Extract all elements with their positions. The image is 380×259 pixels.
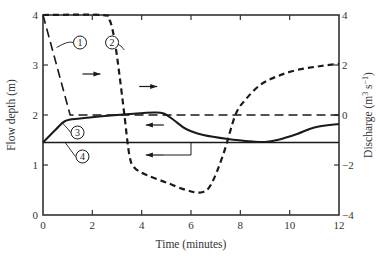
- x-tick-label: 8: [238, 219, 244, 231]
- y-left-tick-label: 4: [33, 9, 39, 21]
- y-right-tick-label: −4: [342, 209, 354, 221]
- x-tick-label: 0: [40, 219, 46, 231]
- series-group: [43, 15, 339, 193]
- arrow-left-head-icon: [146, 153, 153, 158]
- callout-2-label: 2: [110, 37, 115, 48]
- y-right-tick-label: 0: [342, 109, 348, 121]
- y-right-title-main: Discharge (m: [362, 96, 375, 158]
- arrow-right-head-icon: [93, 72, 100, 77]
- callout-3-label: 3: [75, 127, 80, 138]
- series-1-line: [43, 15, 339, 115]
- y-right-tick-label: 2: [342, 59, 348, 71]
- callout-leader: [62, 122, 71, 133]
- y-left-tick-label: 0: [33, 209, 39, 221]
- arrow-left-head-icon: [146, 123, 153, 128]
- callout-4-label: 4: [80, 151, 85, 162]
- y-right-tick-label: −2: [342, 159, 354, 171]
- callout-leader: [65, 143, 75, 157]
- y-axis-right-title: Discharge (m3 s−1): [361, 72, 375, 158]
- y-axis-left-title: Flow depth (m): [5, 79, 18, 151]
- y-right-title-end: ): [362, 72, 375, 76]
- arrow-right-head-icon: [150, 84, 157, 89]
- chart: 02468101201234−4−2024 1234 Time (minutes…: [0, 0, 380, 259]
- callout-1-label: 1: [78, 37, 83, 48]
- series-2-line: [43, 15, 339, 193]
- x-tick-label: 4: [139, 219, 145, 231]
- y-right-tick-label: 4: [342, 9, 348, 21]
- series-3-line: [43, 112, 339, 142]
- x-tick-label: 10: [284, 219, 296, 231]
- y-left-tick-label: 2: [33, 109, 39, 121]
- y-left-tick-label: 1: [33, 159, 39, 171]
- leader-line: [164, 143, 191, 156]
- x-tick-label: 6: [188, 219, 194, 231]
- y-left-tick-label: 3: [33, 59, 39, 71]
- x-axis-title: Time (minutes): [156, 238, 227, 251]
- callout-leader: [57, 42, 73, 47]
- x-tick-label: 2: [90, 219, 96, 231]
- y-right-title-supm1: −1: [361, 76, 370, 85]
